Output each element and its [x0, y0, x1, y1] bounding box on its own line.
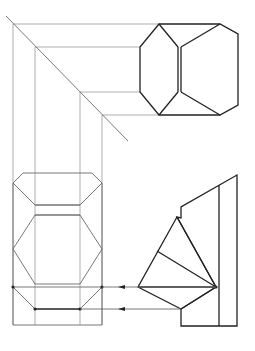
arrow-head-icon	[118, 307, 125, 311]
fan-ray	[181, 287, 216, 309]
fan-ray	[177, 217, 216, 287]
top-view-edge	[159, 24, 178, 47]
point-dot	[33, 307, 36, 310]
front-top-cap	[13, 173, 102, 205]
fan-ray	[157, 251, 216, 287]
front-lower-diag	[13, 287, 35, 309]
projection-drawing	[0, 0, 255, 351]
side-view-outline	[177, 175, 237, 326]
miter-line	[6, 16, 128, 141]
construction-lines	[13, 24, 159, 325]
top-view	[140, 24, 238, 115]
front-view	[11, 173, 103, 325]
arrow-head-icon	[118, 285, 125, 289]
point-dot	[11, 285, 14, 288]
top-view-edge	[159, 92, 178, 115]
top-view-edge	[181, 24, 220, 47]
side-fan-outer	[138, 217, 181, 309]
front-hexagon	[13, 215, 102, 284]
front-lower-diag	[80, 287, 102, 309]
top-view-outline	[140, 24, 238, 115]
side-view	[138, 175, 237, 326]
top-view-edge	[181, 92, 220, 115]
miter-line-45	[6, 16, 128, 141]
